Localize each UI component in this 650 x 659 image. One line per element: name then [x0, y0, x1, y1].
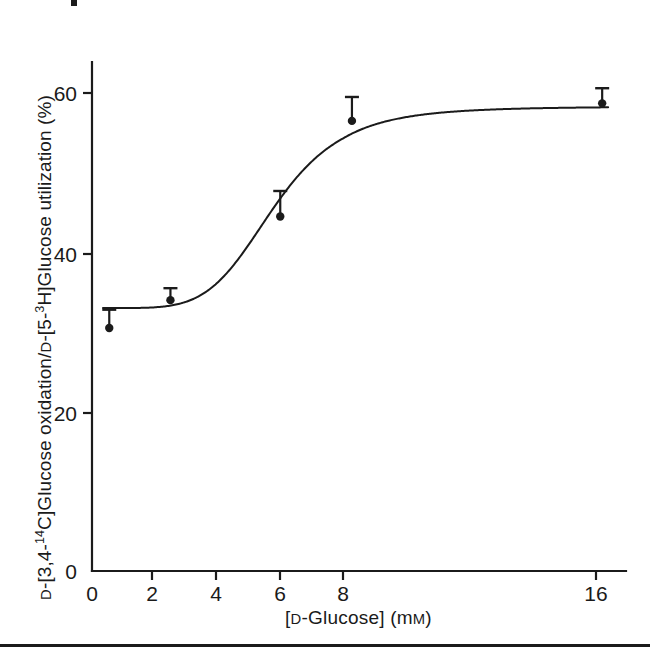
- x-tick-label-2: 2: [146, 582, 158, 605]
- marker-filled-circle: [105, 324, 113, 332]
- x-tick-label-6: 6: [274, 582, 286, 605]
- marker-filled-circle: [598, 99, 606, 107]
- marker-filled-circle: [348, 117, 356, 125]
- y-label-part6: H]Glucose utilization (%): [34, 95, 55, 306]
- y-label-part2: -[3,4-: [34, 544, 55, 589]
- fitted-sigmoid-curve: [103, 107, 608, 308]
- marker-filled-circle: [276, 212, 284, 220]
- y-label-superscript-14: 14: [33, 530, 47, 544]
- x-tick-label-4: 4: [210, 582, 222, 605]
- x-label-smallcap-m: M: [413, 611, 426, 627]
- bottom-divider-rule: [0, 644, 650, 647]
- y-label-smallcap-d2: D: [38, 342, 54, 353]
- x-tick-label-16: 16: [584, 582, 607, 605]
- y-label-superscript-3: 3: [33, 306, 47, 313]
- x-label-smallcap-d: D: [291, 611, 302, 627]
- figure-panel: 60 40 20 0 0 2 4 6 8 16 [D-Glucose] (mM)…: [0, 0, 650, 659]
- data-point: [163, 288, 177, 304]
- marker-filled-circle: [166, 296, 174, 304]
- data-point: [102, 310, 116, 333]
- x-tick-label-8: 8: [337, 582, 349, 605]
- x-label-mid: -Glucose] (m: [302, 607, 413, 628]
- data-point-group: [102, 88, 609, 332]
- data-point: [345, 97, 359, 125]
- data-point: [595, 88, 609, 107]
- y-label-part5: -[5-: [34, 313, 55, 342]
- x-tick-label-0: 0: [86, 582, 98, 605]
- y-label-smallcap-d1: D: [38, 589, 54, 600]
- x-label-suffix: ): [425, 607, 432, 628]
- x-axis-label: [D-Glucose] (mM): [92, 607, 625, 629]
- y-axis-label: D-[3,4-14C]Glucose oxidation/D-[5-3H]Glu…: [34, 0, 64, 600]
- y-tick-label-0: 0: [65, 560, 77, 583]
- chart-canvas: 60 40 20 0 0 2 4 6 8 16: [0, 0, 650, 659]
- y-label-part3: C]Glucose oxidation/: [34, 353, 55, 530]
